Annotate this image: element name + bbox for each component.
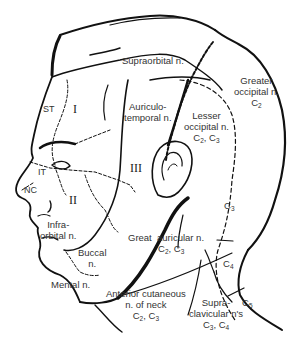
- label-great-auricular-nerve: Great auricular n. C2, C3: [128, 232, 204, 257]
- auriculotemporal-line2: temporal n.: [124, 112, 172, 123]
- segment-c: C: [158, 243, 165, 254]
- infraorbital-line1: Infra-: [40, 219, 76, 230]
- label-buccal-nerve: Buccal n.: [78, 247, 107, 269]
- greater-occipital-line1: Greater: [234, 75, 279, 86]
- label-greater-occipital-nerve: Greater occipital n. C2: [234, 75, 279, 111]
- segment-c: C: [219, 319, 226, 330]
- segment-number: 4: [230, 263, 234, 270]
- segment-number: 3: [181, 248, 185, 255]
- label-dermatome-c3: C3: [224, 200, 235, 214]
- anterior-cutaneous-line1: Anterior cutaneous: [106, 288, 186, 299]
- segment-number: 5: [249, 302, 253, 309]
- label-dermatome-c4: C4: [223, 258, 234, 272]
- buccal-line2: n.: [78, 258, 107, 269]
- segment-c: C: [242, 297, 249, 308]
- lesser-occipital-line2: occipital n.: [184, 121, 229, 132]
- greater-occipital-line2: occipital n.: [234, 86, 279, 97]
- supraclavicular-line2: clavicular n's: [189, 308, 243, 319]
- label-region-ii: II: [69, 195, 77, 206]
- segment-c: C: [133, 310, 140, 321]
- label-supraclavicular-nerves: Supra- clavicular n's C3, C4: [189, 297, 243, 333]
- segment-number: 4: [226, 324, 230, 331]
- label-mental-nerve: Mental n.: [51, 279, 90, 290]
- great-auricular-word2: auricular n.: [157, 232, 204, 243]
- label-supratrochlear: ST: [43, 104, 55, 115]
- label-supraorbital-nerve: Supraorbital n.: [122, 55, 184, 66]
- segment-number: 3: [155, 315, 159, 322]
- segment-number: 3: [231, 205, 235, 212]
- label-anterior-cutaneous-nerve: Anterior cutaneous n. of neck C2, C3: [106, 288, 186, 324]
- anterior-cutaneous-line2: n. of neck: [106, 299, 186, 310]
- buccal-line1: Buccal: [78, 247, 107, 258]
- great-auricular-word1: Great: [128, 232, 152, 243]
- label-region-iii: III: [130, 163, 142, 174]
- segment-c: C: [209, 132, 216, 143]
- segment-c: C: [224, 200, 231, 211]
- infraorbital-line2: orbital n.: [40, 230, 76, 241]
- label-nasociliary: NC: [24, 185, 37, 196]
- great-auricular-segments: C2, C3: [128, 243, 204, 257]
- label-infraorbital-nerve: Infra- orbital n.: [40, 219, 76, 241]
- segment-c: C: [223, 258, 230, 269]
- auriculotemporal-line1: Auriculo-: [124, 101, 172, 112]
- head-neck-nerve-diagram: Supraorbital n. Greater occipital n. C2 …: [0, 0, 303, 341]
- lesser-occipital-line1: Lesser: [184, 110, 229, 121]
- greater-occipital-segment: C2: [234, 97, 279, 111]
- segment-number: 3: [216, 137, 220, 144]
- supraclavicular-line1: Supra-: [189, 297, 243, 308]
- label-infratrochlear: IT: [38, 167, 46, 178]
- great-auricular-line1: Great auricular n.: [128, 232, 204, 243]
- label-region-i: I: [73, 104, 77, 115]
- segment-c: C: [203, 319, 210, 330]
- segment-number: 2: [258, 102, 262, 109]
- segment-c: C: [174, 243, 181, 254]
- label-auriculotemporal-nerve: Auriculo- temporal n.: [124, 101, 172, 123]
- lesser-occipital-segments: C2, C3: [184, 132, 229, 146]
- supraclavicular-segments: C3, C4: [189, 319, 243, 333]
- anterior-cutaneous-segments: C2, C3: [106, 310, 186, 324]
- label-dermatome-c5: C5: [242, 297, 253, 311]
- label-lesser-occipital-nerve: Lesser occipital n. C2, C3: [184, 110, 229, 146]
